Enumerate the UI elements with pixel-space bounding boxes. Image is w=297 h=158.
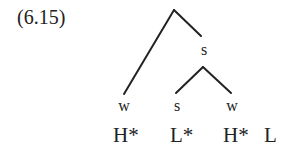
node-leaf-w-2: w xyxy=(226,98,238,114)
node-leaf-s: s xyxy=(174,98,180,114)
branch-s-left xyxy=(176,67,203,93)
tone-l: L xyxy=(264,125,277,146)
branch-s-right xyxy=(203,67,231,93)
metrical-tree-branches xyxy=(0,0,297,158)
tone-h-star-1: H* xyxy=(113,125,139,146)
node-s-internal: s xyxy=(201,42,207,58)
branch-root-left xyxy=(124,10,174,94)
tone-h-star-2: H* xyxy=(223,125,249,146)
node-leaf-w-1: w xyxy=(118,98,130,114)
branch-root-right xyxy=(174,10,201,36)
tone-l-star: L* xyxy=(170,125,193,146)
